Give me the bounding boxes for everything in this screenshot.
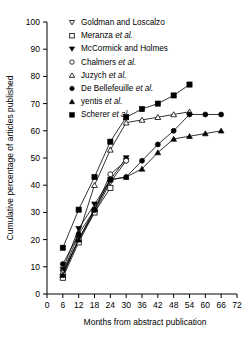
legend-label-name: Chalmers [81, 58, 118, 67]
x-tick-label: 6 [60, 300, 65, 310]
y-tick-label: 100 [26, 17, 40, 27]
data-point-open-up-triangle [69, 73, 74, 77]
legend-item-6[interactable]: yentis et al. [69, 97, 122, 106]
data-point-filled-circle [140, 158, 145, 163]
legend-item-4[interactable]: Juzych et al. [69, 71, 126, 80]
legend-label: McCormick and Holmes [81, 44, 168, 53]
data-point-open-square [70, 33, 75, 38]
legend-label-etal: et al. [112, 110, 130, 119]
x-tick-label: 72 [232, 300, 242, 310]
y-tick-label: 30 [31, 207, 41, 217]
data-point-filled-circle [70, 86, 74, 90]
y-axis-title: Cumulative percentage of articles publis… [5, 75, 15, 240]
data-point-open-square [108, 185, 113, 190]
x-tick-label: 54 [185, 300, 195, 310]
data-point-filled-square [60, 245, 65, 250]
legend-label-etal: et al. [118, 58, 136, 67]
series-7 [60, 82, 192, 250]
legend-label: Juzych et al. [81, 71, 127, 80]
x-tick-label: 24 [106, 300, 116, 310]
data-point-open-up-triangle [92, 183, 98, 188]
data-point-open-circle [70, 60, 74, 64]
legend-label-name: Meranza [81, 31, 115, 40]
series-line [63, 131, 221, 275]
y-tick-label: 20 [31, 235, 41, 245]
data-point-open-circle [108, 172, 113, 177]
legend-item-7[interactable]: Scherer et al. [70, 110, 130, 119]
x-tick-label: 0 [45, 300, 50, 310]
legend-label: yentis et al. [81, 97, 122, 106]
series-5 [60, 112, 223, 267]
legend-item-1[interactable]: Meranza et al. [70, 31, 133, 40]
series-4 [60, 109, 192, 274]
data-point-filled-up-triangle [69, 99, 74, 103]
y-tick-label: 70 [31, 99, 41, 109]
legend-label: De Bellefeuille et al. [81, 84, 153, 93]
legend-item-5[interactable]: De Bellefeuille et al. [70, 84, 154, 93]
data-point-filled-up-triangle [218, 128, 224, 133]
x-tick-label: 66 [216, 300, 226, 310]
data-point-filled-square [187, 82, 192, 87]
data-point-filled-square [139, 106, 144, 111]
legend-label-name: Scherer [81, 110, 112, 119]
legend-label-name: McCormick and Holmes [81, 44, 168, 53]
cumulative-publication-line-chart: 0102030405060708090100 06121824303642485… [0, 0, 252, 339]
data-point-filled-circle [171, 128, 176, 133]
x-tick-label: 30 [121, 300, 131, 310]
x-tick-label: 42 [153, 300, 163, 310]
x-tick-label: 60 [201, 300, 211, 310]
legend-item-0[interactable]: Goldman and Loscalzo [69, 18, 165, 27]
legend-item-3[interactable]: Chalmers et al. [70, 58, 136, 67]
data-point-filled-circle [219, 112, 224, 117]
y-axis-ticks: 0102030405060708090100 [26, 17, 47, 299]
x-tick-label: 18 [90, 300, 100, 310]
chart-legend: Goldman and LoscalzoMeranza et al.McCorm… [69, 18, 168, 119]
legend-label: Chalmers et al. [81, 58, 136, 67]
y-tick-label: 0 [35, 289, 40, 299]
data-point-filled-square [92, 174, 97, 179]
y-tick-label: 40 [31, 180, 41, 190]
data-point-filled-square [155, 101, 160, 106]
data-point-filled-circle [203, 112, 208, 117]
legend-label-name: De Bellefeuille [81, 84, 136, 93]
data-point-open-down-triangle [69, 21, 74, 25]
x-axis-title: Months from abstract publication [84, 317, 207, 327]
legend-label: Goldman and Loscalzo [81, 18, 165, 27]
data-point-filled-circle [60, 262, 65, 267]
chart-container: 0102030405060708090100 06121824303642485… [0, 0, 252, 339]
y-tick-label: 80 [31, 71, 41, 81]
legend-label-etal: et al. [109, 71, 127, 80]
x-tick-label: 12 [74, 300, 84, 310]
legend-label-name: yentis [81, 97, 105, 106]
data-point-filled-circle [155, 142, 160, 147]
data-point-filled-square [70, 113, 75, 118]
legend-item-2[interactable]: McCormick and Holmes [69, 44, 168, 53]
y-tick-label: 60 [31, 126, 41, 136]
legend-label-etal: et al. [115, 31, 133, 40]
x-tick-label: 48 [169, 300, 179, 310]
y-tick-label: 90 [31, 44, 41, 54]
x-axis-ticks: 061218243036424854606672 [45, 294, 242, 310]
series-line [63, 114, 221, 264]
legend-label: Meranza et al. [81, 31, 133, 40]
legend-label-etal: et al. [136, 84, 154, 93]
data-point-filled-square [108, 139, 113, 144]
legend-label-name: Juzych [81, 71, 109, 80]
data-point-filled-down-triangle [69, 47, 74, 51]
series-6 [60, 128, 224, 277]
series-line [63, 188, 111, 278]
data-point-filled-square [76, 207, 81, 212]
data-point-open-up-triangle [107, 147, 113, 152]
data-point-filled-square [171, 93, 176, 98]
legend-label: Scherer et al. [81, 110, 130, 119]
data-point-filled-circle [187, 112, 192, 117]
data-point-open-circle [124, 158, 129, 163]
series-line [63, 112, 190, 272]
legend-label-name: Goldman and Loscalzo [81, 18, 165, 27]
y-tick-label: 50 [31, 153, 41, 163]
series-1 [60, 185, 113, 280]
y-tick-label: 10 [31, 262, 41, 272]
x-tick-label: 36 [137, 300, 147, 310]
legend-label-etal: et al. [105, 97, 123, 106]
